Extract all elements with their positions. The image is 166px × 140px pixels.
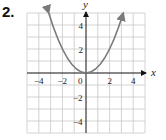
x-tick-label: 4 <box>131 76 136 86</box>
y-axis-label: y <box>82 0 88 10</box>
x-tick-label: 0 <box>78 76 83 86</box>
x-tick-label: −2 <box>58 76 68 86</box>
y-tick-label: 4 <box>79 21 84 31</box>
y-tick-label: −4 <box>73 117 83 127</box>
graph: x y −4 −2 0 2 4 4 2 −2 −4 <box>0 0 166 140</box>
y-tick-label: 2 <box>79 45 84 55</box>
x-tick-label: 2 <box>108 76 113 86</box>
x-axis-label: x <box>150 66 156 78</box>
x-tick-label: −4 <box>34 76 44 86</box>
y-tick-label: −2 <box>73 93 83 103</box>
